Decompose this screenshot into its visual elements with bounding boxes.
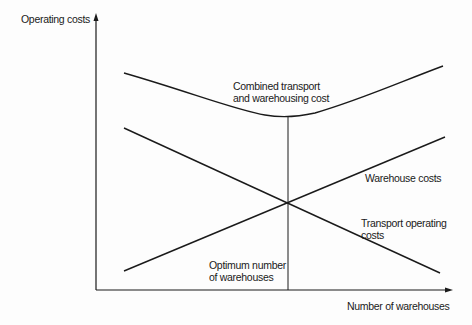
transport-cost-label: Transport operating costs <box>361 217 447 241</box>
y-axis-arrow-icon <box>94 13 99 21</box>
y-axis-label: Operating costs <box>21 13 90 25</box>
warehouse-cost-label: Warehouse costs <box>365 172 441 184</box>
optimum-label: Optimum number of warehouses <box>209 259 286 283</box>
optimum-label-line1: Optimum number <box>209 259 286 271</box>
warehouse-cost-line <box>124 137 445 271</box>
optimum-label-line2: of warehouses <box>209 271 286 283</box>
combined-cost-label-line1: Combined transport <box>233 80 329 92</box>
x-axis-label: Number of warehouses <box>347 300 450 312</box>
combined-cost-label-line2: and warehousing cost <box>233 92 329 104</box>
transport-cost-label-line2: costs <box>361 229 447 241</box>
combined-cost-label: Combined transport and warehousing cost <box>233 80 329 104</box>
transport-cost-label-line1: Transport operating <box>361 217 447 229</box>
x-axis-arrow-icon <box>445 288 453 293</box>
